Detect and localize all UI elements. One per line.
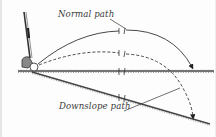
golf-ball-icon (30, 63, 38, 71)
downslope-path-label: Downslope path (59, 101, 131, 111)
flat-ground (18, 70, 214, 73)
normal-path-trajectory (38, 30, 192, 67)
diagram-frame: Normal path Downslope path (0, 0, 216, 137)
normal-path-label: Normal path (58, 9, 114, 19)
golf-club-icon (22, 12, 33, 68)
downslope-ground (32, 72, 210, 126)
normal-path-leader (110, 19, 126, 29)
golf-paths-illustration (2, 0, 216, 137)
